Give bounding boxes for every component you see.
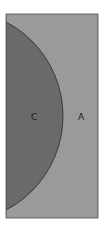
label-a: A — [78, 112, 85, 122]
label-c: C — [31, 112, 37, 122]
venn-diagram: C A — [0, 0, 105, 228]
